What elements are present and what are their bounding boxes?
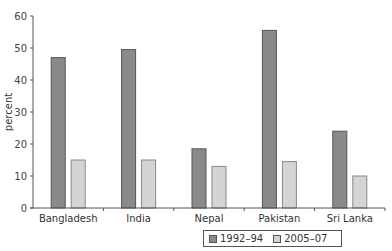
bar: [282, 162, 296, 208]
y-axis: 0102030405060: [14, 11, 33, 214]
x-category-label: Sri Lanka: [327, 213, 373, 224]
y-axis-label: percent: [3, 93, 14, 131]
x-category-label: Nepal: [195, 213, 224, 224]
bar: [51, 58, 65, 208]
legend-item-series-1: 1992–94: [209, 233, 263, 244]
x-category-label: India: [126, 213, 151, 224]
y-tick-label: 30: [14, 107, 27, 118]
bars: [51, 30, 367, 208]
y-tick-label: 40: [14, 75, 27, 86]
legend-swatch-light: [273, 235, 281, 243]
legend-label: 1992–94: [220, 233, 263, 244]
y-tick-label: 10: [14, 171, 27, 182]
x-axis: BangladeshIndiaNepalPakistanSri Lanka: [30, 208, 385, 224]
y-tick-label: 60: [14, 11, 27, 22]
bar: [262, 30, 276, 208]
bar: [142, 160, 156, 208]
x-category-label: Pakistan: [258, 213, 300, 224]
y-tick-label: 50: [14, 43, 27, 54]
bar: [353, 176, 367, 208]
bar: [122, 50, 136, 208]
legend-swatch-dark: [209, 235, 217, 243]
legend: 1992–94 2005–07: [203, 230, 342, 247]
bar: [192, 149, 206, 208]
bar: [333, 131, 347, 208]
bar: [71, 160, 85, 208]
x-category-label: Bangladesh: [39, 213, 98, 224]
legend-item-series-2: 2005–07: [273, 233, 327, 244]
legend-label: 2005–07: [284, 233, 327, 244]
bar-chart: 0102030405060 BangladeshIndiaNepalPakist…: [0, 0, 392, 251]
y-tick-label: 20: [14, 139, 27, 150]
y-tick-label: 0: [21, 203, 27, 214]
bar: [212, 166, 226, 208]
